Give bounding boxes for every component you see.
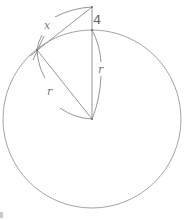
tangent-circle-diagram: x 4 r r	[0, 0, 185, 220]
tangent-point	[36, 49, 38, 51]
r-arc-vertical-upper	[92, 30, 101, 62]
r-arc-vertical-lower	[92, 76, 101, 119]
label-4: 4	[93, 12, 101, 27]
top-point	[91, 29, 93, 31]
center-point	[91, 118, 93, 120]
radius-to-tangent	[37, 50, 92, 119]
label-x: x	[44, 19, 51, 32]
r-arc-slanted-upper	[37, 50, 45, 78]
x-arc-upper	[55, 7, 92, 17]
label-r-slanted: r	[47, 85, 53, 98]
label-r-vertical: r	[98, 63, 104, 76]
edge-artifact	[0, 212, 3, 218]
external-point	[91, 6, 93, 8]
